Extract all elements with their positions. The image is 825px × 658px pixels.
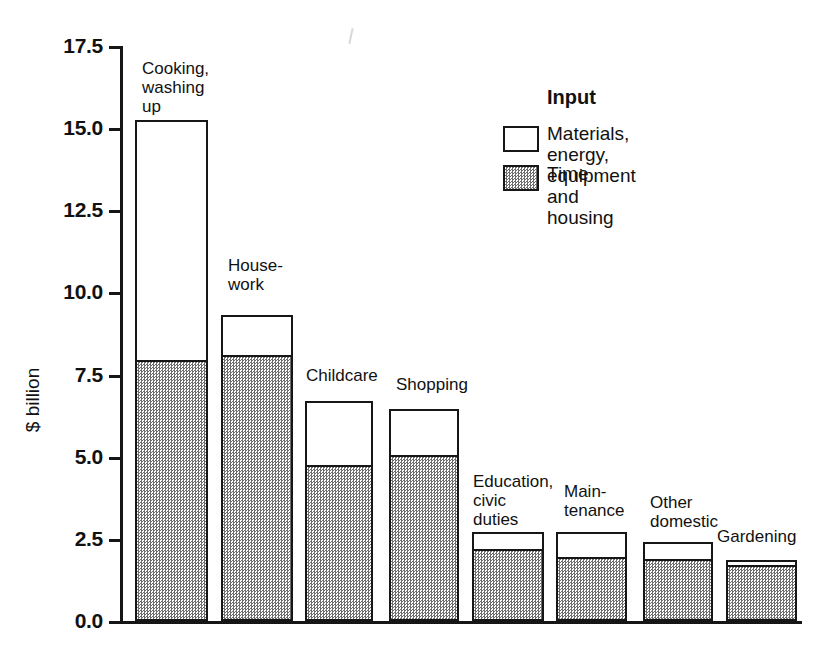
bar-segment-materials	[305, 401, 373, 467]
bar-4	[389, 409, 459, 621]
bar-label-1: Cooking, washing up	[142, 59, 209, 116]
bar-segment-time	[305, 465, 373, 621]
bar-segment-time	[726, 565, 797, 621]
bar-label-3: Childcare	[306, 366, 378, 385]
legend-title: Input	[547, 86, 596, 109]
y-axis-line	[120, 46, 123, 624]
bar-segment-time	[135, 360, 208, 621]
bar-label-5: Education, civic duties	[473, 472, 553, 529]
y-tick-label-4: 10.0	[43, 281, 103, 302]
bar-segment-time	[221, 355, 293, 621]
bar-7	[643, 542, 713, 621]
bar-5	[472, 532, 544, 621]
bar-segment-time	[472, 549, 544, 621]
bar-8	[726, 560, 797, 621]
legend-label-time: Time	[547, 163, 589, 184]
y-tick-label-3: 7.5	[43, 364, 103, 385]
bar-label-4: Shopping	[396, 375, 468, 394]
y-tick-label-0: 0.0	[43, 610, 103, 631]
legend-swatch-materials-icon	[503, 126, 539, 152]
bar-1	[135, 120, 208, 621]
scan-artifact-speck	[348, 28, 353, 44]
bar-segment-materials	[389, 409, 459, 457]
bar-label-2: House- work	[228, 256, 283, 294]
bar-3	[305, 401, 373, 621]
y-tick-label-1: 2.5	[43, 528, 103, 549]
bar-label-8: Gardening	[717, 527, 796, 546]
y-tick-label-6: 15.0	[43, 117, 103, 138]
x-axis-line	[120, 621, 802, 624]
bar-segment-time	[643, 559, 713, 621]
bar-segment-time	[389, 455, 459, 621]
bar-label-6: Main- tenance	[564, 482, 625, 520]
y-tick-label-5: 12.5	[43, 199, 103, 220]
bar-2	[221, 315, 293, 621]
stacked-bar-chart: $ billion 0.0 2.5 5.0 7.5 10.0 12.5 15.0…	[0, 0, 825, 658]
bar-segment-materials	[135, 120, 208, 362]
bar-segment-materials	[221, 315, 293, 356]
bar-segment-time	[556, 557, 627, 621]
bar-segment-materials	[556, 532, 627, 559]
y-axis-title: $ billion	[22, 340, 44, 460]
y-tick-label-7: 17.5	[43, 35, 103, 56]
bar-6	[556, 532, 627, 621]
bar-label-7: Other domestic	[650, 493, 718, 531]
legend-swatch-time-icon	[503, 165, 539, 191]
y-tick-label-2: 5.0	[43, 446, 103, 467]
